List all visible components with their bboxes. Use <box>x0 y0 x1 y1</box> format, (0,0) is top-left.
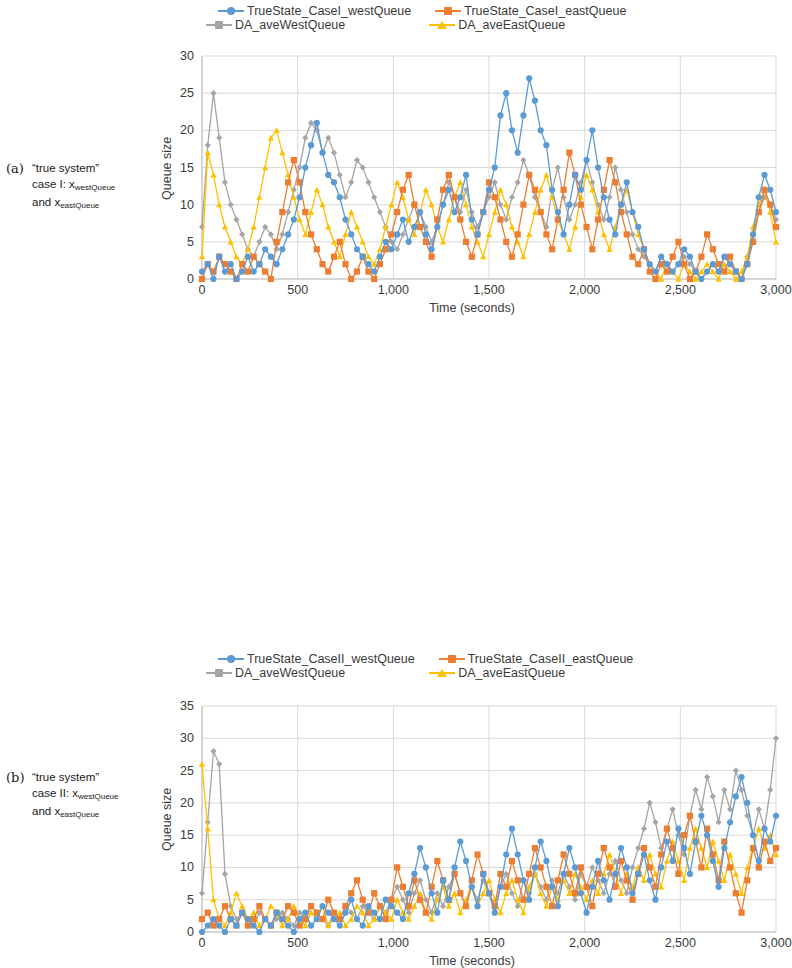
data-point <box>423 910 429 916</box>
data-point <box>233 216 239 222</box>
data-point <box>727 254 733 260</box>
data-point <box>457 216 463 222</box>
data-point <box>652 897 658 903</box>
data-point <box>342 216 348 222</box>
data-point <box>457 839 463 845</box>
caption-a-line-2: case I: xwestQueue <box>32 176 156 194</box>
y-axis-tick-label: 30 <box>158 731 194 745</box>
data-point <box>262 916 268 922</box>
data-point <box>210 172 216 178</box>
data-point <box>744 877 750 883</box>
data-point <box>434 858 440 864</box>
data-point <box>388 231 394 237</box>
data-point <box>268 922 274 928</box>
data-point <box>222 179 228 185</box>
data-point <box>239 268 245 274</box>
data-point <box>233 254 239 260</box>
data-point <box>503 216 509 222</box>
data-point <box>331 916 337 922</box>
data-point <box>520 897 526 903</box>
data-point <box>583 157 589 163</box>
data-point <box>302 910 308 916</box>
chart-canvas <box>158 50 786 305</box>
data-point <box>721 268 727 274</box>
data-point <box>417 897 423 903</box>
legend-marker-square-icon <box>444 7 452 15</box>
data-point <box>325 172 331 178</box>
legend-line-swatch <box>206 672 232 674</box>
x-axis-tick-label: 500 <box>287 283 308 297</box>
data-point <box>446 903 452 909</box>
data-point <box>624 864 630 870</box>
data-point <box>520 254 526 260</box>
data-point <box>251 254 257 260</box>
data-point <box>606 246 612 252</box>
data-point <box>302 135 308 141</box>
data-point <box>601 877 607 883</box>
data-point <box>210 916 216 922</box>
data-point <box>388 246 394 252</box>
legend-item-DA_aveWestQueue[interactable]: DA_aveWestQueue <box>206 18 345 32</box>
legend-line-swatch <box>206 24 232 26</box>
y-axis-title: Queue size <box>160 788 174 851</box>
data-point <box>664 268 670 274</box>
data-point <box>279 916 285 922</box>
data-point <box>205 261 211 267</box>
data-point <box>595 858 601 864</box>
data-point <box>262 268 268 274</box>
data-point <box>268 276 274 282</box>
data-point <box>733 871 739 877</box>
legend-item-TrueState_CaseII_eastQueue[interactable]: TrueState_CaseII_eastQueue <box>439 652 634 666</box>
data-point <box>773 845 779 851</box>
data-point <box>515 150 521 156</box>
data-point <box>532 187 538 193</box>
data-point <box>474 231 480 237</box>
legend-row: TrueState_CaseI_westQueueTrueState_CaseI… <box>158 4 786 18</box>
legend-marker-diamond-icon <box>215 21 223 29</box>
data-point <box>681 261 687 267</box>
data-point <box>658 884 664 890</box>
data-point <box>331 179 337 185</box>
data-point <box>532 864 538 870</box>
legend-item-TrueState_CaseI_eastQueue[interactable]: TrueState_CaseI_eastQueue <box>435 4 626 18</box>
data-point <box>331 910 337 916</box>
legend-item-DA_aveEastQueue[interactable]: DA_aveEastQueue <box>429 666 565 680</box>
data-point <box>629 209 635 215</box>
data-point <box>538 864 544 870</box>
legend-line-swatch <box>218 10 244 12</box>
legend-item-TrueState_CaseII_westQueue[interactable]: TrueState_CaseII_westQueue <box>218 652 415 666</box>
data-point <box>319 261 325 267</box>
legend-item-DA_aveWestQueue[interactable]: DA_aveWestQueue <box>206 666 345 680</box>
data-point <box>612 231 618 237</box>
caption-b-sub-3: eastQueue <box>60 810 99 819</box>
data-point <box>756 826 762 832</box>
legend-item-DA_aveEastQueue[interactable]: DA_aveEastQueue <box>429 18 565 32</box>
data-point <box>687 845 693 851</box>
data-point <box>497 112 503 118</box>
data-point <box>641 877 647 883</box>
data-point <box>526 172 532 178</box>
data-point <box>360 922 366 928</box>
data-point <box>205 150 211 156</box>
data-point <box>411 224 417 230</box>
data-point <box>285 231 291 237</box>
data-point <box>681 246 687 252</box>
legend-line-swatch <box>429 672 455 674</box>
data-point <box>199 916 205 922</box>
data-point <box>440 877 446 883</box>
data-point <box>205 142 211 148</box>
data-point <box>532 98 538 104</box>
legend-item-TrueState_CaseI_westQueue[interactable]: TrueState_CaseI_westQueue <box>218 4 411 18</box>
data-point <box>319 903 325 909</box>
data-point <box>526 231 532 237</box>
y-axis-tick-label: 5 <box>158 235 194 249</box>
data-point <box>337 194 343 200</box>
data-point <box>216 761 222 767</box>
data-point <box>698 276 704 282</box>
data-point <box>325 897 331 903</box>
data-point <box>256 194 262 200</box>
data-point <box>629 897 635 903</box>
x-axis-tick-label: 3,000 <box>760 283 791 297</box>
data-point <box>629 231 635 237</box>
data-point <box>624 890 630 896</box>
